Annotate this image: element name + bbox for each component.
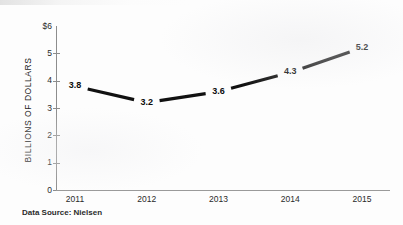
data-point-label: 3.2 [139, 97, 154, 106]
data-line-series [0, 0, 403, 225]
chart-figure: BILLIONS OF DOLLARS $6543210 20112012201… [0, 0, 403, 225]
data-point-label: 3.6 [211, 86, 226, 95]
line-segment [303, 52, 350, 68]
source-note: Data Source: Nielsen [22, 208, 102, 217]
data-point-label: 4.3 [283, 67, 298, 76]
data-point-label: 5.2 [355, 42, 370, 51]
line-segment [231, 76, 278, 88]
line-segment [88, 89, 134, 100]
line-segment [160, 94, 206, 101]
data-point-label: 3.8 [68, 81, 83, 90]
